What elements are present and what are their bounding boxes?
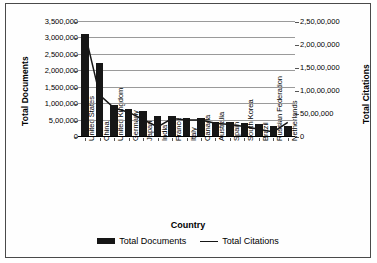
x-axis-line	[78, 136, 295, 137]
y-axis-right-tickmark	[295, 91, 299, 92]
y-axis-left-tickmark	[74, 137, 78, 138]
x-axis-title: Country	[6, 220, 370, 230]
x-axis-tickmark	[143, 138, 144, 141]
legend-label: Total Citations	[222, 236, 279, 246]
x-axis-tickmark	[172, 138, 173, 141]
x-axis-tickmark	[244, 138, 245, 141]
x-axis-tickmark	[85, 138, 86, 141]
legend-item: Total Citations	[200, 236, 279, 246]
legend-label: Total Documents	[119, 236, 186, 246]
x-axis-tickmark	[230, 138, 231, 141]
legend-item: Total Documents	[97, 236, 186, 246]
y-axis-left-tick-label: 3,500,000	[45, 18, 78, 26]
y-axis-left-tick-label: 1,000,000	[45, 100, 78, 108]
x-axis-tickmark	[187, 138, 188, 141]
y-axis-left-tick-label: 2,000,000	[45, 67, 78, 75]
x-axis-tickmark	[259, 138, 260, 141]
x-axis-tickmark	[288, 138, 289, 141]
y-axis-right-tick-label: 1,50,00,000	[300, 64, 340, 72]
chart-legend: Total DocumentsTotal Citations	[6, 236, 370, 246]
y-axis-right-tick-label: 2,00,00,000	[300, 41, 340, 49]
x-axis-tickmark	[215, 138, 216, 141]
line-path	[85, 34, 288, 132]
y-axis-right-tickmark	[295, 45, 299, 46]
y-axis-right-tick-label: 50,00,000	[300, 110, 333, 118]
chart-container: Total Documents Total Citations Country …	[5, 3, 371, 258]
y-axis-right-tick-label: 1,00,00,000	[300, 87, 340, 95]
y-axis-left-tick-label: 3,000,000	[45, 34, 78, 42]
plot-area	[78, 22, 295, 137]
y-axis-left-title: Total Documents	[20, 56, 30, 126]
y-axis-left-tick-label: 1,500,000	[45, 84, 78, 92]
y-axis-right-tick-label: 2,50,00,000	[300, 18, 340, 26]
y-axis-right-title: Total Citations	[361, 64, 371, 124]
y-axis-right-tickmark	[295, 68, 299, 69]
x-axis-tickmark	[100, 138, 101, 141]
x-axis-tickmark	[201, 138, 202, 141]
y-axis-left-tick-label: 2,500,000	[45, 51, 78, 59]
y-axis-right-tick-label: 0	[300, 133, 304, 141]
x-axis-tickmark	[129, 138, 130, 141]
line-series	[78, 22, 295, 137]
x-axis-tickmark	[158, 138, 159, 141]
y-axis-right-tickmark	[295, 22, 299, 23]
legend-bar-swatch	[97, 238, 115, 244]
x-axis-tickmark	[114, 138, 115, 141]
x-axis-tickmark	[273, 138, 274, 141]
legend-line-swatch	[200, 241, 218, 242]
